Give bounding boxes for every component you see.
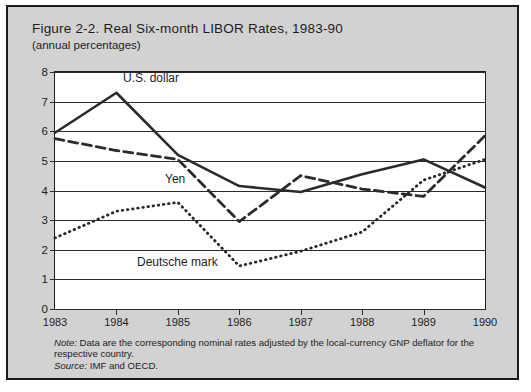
figure-subtitle: (annual percentages) xyxy=(32,39,141,51)
y-axis-tick-label: 1 xyxy=(42,273,48,285)
y-axis-tick-label: 2 xyxy=(42,244,48,256)
series-label-us-dollar: U.S. dollar xyxy=(123,71,179,85)
x-axis-tick-label: 1988 xyxy=(350,316,374,328)
source-label: Source: xyxy=(54,360,87,371)
x-axis-tick-mark xyxy=(362,309,363,315)
source-line: Source: IMF and OECD. xyxy=(54,360,158,371)
chart-series-group xyxy=(55,72,485,309)
x-axis-tick-label: 1990 xyxy=(473,316,497,328)
figure-title: Figure 2-2. Real Six-month LIBOR Rates, … xyxy=(32,21,343,36)
figure-notes: Note: Data are the corresponding nominal… xyxy=(54,337,484,371)
x-axis-tick-mark xyxy=(239,309,240,315)
x-axis-tick-label: 1986 xyxy=(227,316,251,328)
chart-line-deutsche-mark xyxy=(55,159,485,266)
x-axis-tick-label: 1984 xyxy=(104,316,128,328)
x-axis-tick-label: 1987 xyxy=(288,316,312,328)
x-axis-tick-mark xyxy=(178,309,179,315)
chart-line-u-s-dollar xyxy=(55,93,485,192)
y-axis-tick-label: 6 xyxy=(42,125,48,137)
source-text: IMF and OECD. xyxy=(87,360,158,371)
series-label-deutsche-mark: Deutsche mark xyxy=(137,255,218,269)
y-axis-tick-label: 8 xyxy=(42,66,48,78)
x-axis-tick-label: 1983 xyxy=(43,316,67,328)
y-axis-tick-mark xyxy=(50,309,55,310)
x-axis-tick-mark xyxy=(116,309,117,315)
note-label: Note: xyxy=(54,337,77,348)
chart-line-yen xyxy=(55,136,485,222)
x-axis-tick-mark xyxy=(424,309,425,315)
chart-plot-area: 012345678 198319841985198619871988198919… xyxy=(54,71,486,310)
x-axis-tick-label: 1985 xyxy=(166,316,190,328)
note-line: Note: Data are the corresponding nominal… xyxy=(54,337,474,359)
y-axis-tick-label: 0 xyxy=(42,303,48,315)
y-axis-tick-label: 4 xyxy=(42,185,48,197)
note-text: Data are the corresponding nominal rates… xyxy=(54,337,474,359)
series-label-yen: Yen xyxy=(165,172,185,186)
x-axis-tick-mark xyxy=(301,309,302,315)
figure-panel: Figure 2-2. Real Six-month LIBOR Rates, … xyxy=(6,5,519,380)
x-axis-tick-label: 1989 xyxy=(411,316,435,328)
gridline xyxy=(55,309,485,310)
y-axis-tick-label: 3 xyxy=(42,214,48,226)
y-axis-tick-label: 5 xyxy=(42,155,48,167)
y-axis-tick-label: 7 xyxy=(42,96,48,108)
